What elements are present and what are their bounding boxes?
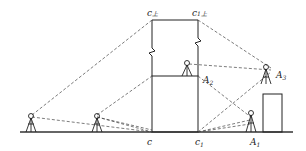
- label-c1-top: c1上: [192, 8, 208, 18]
- label-c1: c1: [195, 137, 204, 148]
- label-c: c: [147, 137, 152, 147]
- tall-column: [149, 20, 201, 76]
- survey-diagram: c c1 c上 c1上 A2 A1 A3: [0, 0, 306, 151]
- central-building: [152, 76, 198, 132]
- instrument-far-left: [26, 114, 36, 133]
- instrument-A1: [246, 111, 256, 133]
- label-A3: A3: [275, 70, 287, 81]
- instrument-A2: [182, 61, 192, 77]
- label-c-top: c上: [147, 8, 159, 18]
- instrument-left: [92, 114, 102, 133]
- right-building: [263, 94, 282, 132]
- label-A2: A2: [202, 75, 214, 86]
- label-A1: A1: [249, 137, 260, 148]
